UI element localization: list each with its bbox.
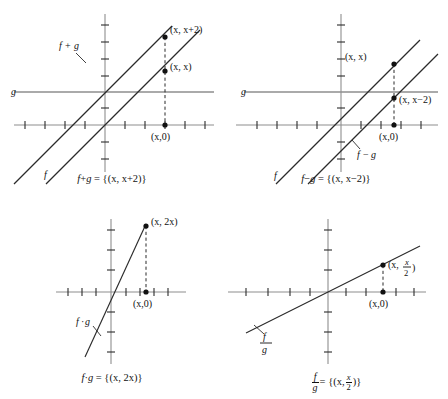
caption-g: g [88, 372, 93, 383]
caption-rhs: = {(x, x−2)} [318, 173, 371, 184]
point-label-base: (x,0) [151, 131, 170, 143]
svg-text:f: f [357, 149, 361, 160]
panel-4-plot: f g (x, x 2 ) (x,0) [224, 199, 448, 375]
panel-f-minus-g: g f f − g (x, x) (x, x−2) (x,0) f−g = {(… [224, 0, 448, 200]
point-on-f-times-g [143, 223, 148, 228]
svg-text:(x,: (x, [388, 259, 399, 271]
point-label-base: (x,0) [133, 298, 152, 310]
panel-2-plot: g f f − g (x, x) (x, x−2) (x,0) [224, 0, 448, 176]
panel-f-times-g: f · g (x, 2x) (x,0) f·g = {(x, 2x)} [0, 199, 224, 399]
f-minus-g-leader [352, 140, 360, 149]
svg-text:f: f [263, 331, 267, 342]
curve-label-f-times-g: f · g [76, 316, 90, 327]
point-on-f [162, 68, 167, 73]
point-on-x-axis [391, 122, 396, 127]
panel-f-plus-g: g f f + g (x, x+2) (x, x) (x,0) f+g = {(… [0, 0, 224, 200]
svg-text:2: 2 [404, 268, 408, 278]
point-label-mid: (x, x−2) [399, 94, 431, 106]
svg-text:·: · [81, 316, 84, 327]
svg-text:g: g [85, 316, 90, 327]
point-on-x-axis [162, 122, 167, 127]
caption-end: )} [353, 376, 362, 387]
caption-g: g [310, 173, 315, 184]
caption-inner-fraction: x2 [346, 373, 352, 391]
panel-3-caption: f·g = {(x, 2x)} [0, 372, 224, 383]
point-on-x-axis [380, 289, 385, 294]
svg-text:−: − [363, 149, 369, 160]
caption-mid: = {(x, [320, 376, 345, 387]
point-label-top: (x, x) [345, 51, 367, 63]
panel-4-caption: fg= {(x,x2)} [224, 372, 448, 393]
caption-num: f [312, 372, 319, 383]
caption-frac-den: 2 [346, 383, 352, 392]
caption-fraction-f-over-g: fg [312, 372, 319, 393]
point-label-top: (x, 2x) [151, 216, 178, 228]
caption-g: g [86, 173, 91, 184]
curve-label-f-plus-g: f + g [59, 40, 79, 51]
curve-label-f-over-g: f g [260, 331, 272, 355]
svg-text:f: f [59, 40, 63, 51]
panel-2-caption: f−g = {(x, x−2)} [224, 173, 448, 184]
svg-text:+: + [65, 40, 71, 51]
curve-f-times-g [85, 224, 146, 357]
curve-label-f-minus-g: f − g [357, 149, 376, 160]
svg-text:x: x [404, 257, 409, 267]
f-times-g-leader [93, 326, 101, 336]
svg-text:g: g [262, 344, 267, 355]
point-label-top: (x, x 2 ) [388, 257, 415, 278]
panel-3-plot: f · g (x, 2x) (x,0) [0, 199, 224, 375]
svg-text:g: g [371, 149, 376, 160]
panel-f-over-g: f g (x, x 2 ) (x,0) fg= {(x,x2)} [224, 199, 448, 399]
curve-f-plus-g [14, 26, 172, 184]
point-on-f [391, 61, 396, 66]
curve-f-minus-g [308, 54, 438, 184]
point-label-base: (x,0) [379, 131, 398, 143]
curve-f [46, 30, 200, 184]
curve-label-g: g [241, 86, 246, 97]
caption-rhs: = {(x, 2x)} [96, 372, 143, 383]
point-label-mid: (x, x) [170, 61, 192, 73]
caption-rhs: = {(x, x+2)} [94, 173, 147, 184]
point-on-f-plus-g [162, 34, 167, 39]
svg-text:f: f [76, 316, 80, 327]
figure-container: g f f + g (x, x+2) (x, x) (x,0) f+g = {(… [0, 0, 448, 399]
curve-label-g: g [11, 86, 16, 97]
point-label-top: (x, x+2) [170, 24, 202, 36]
point-on-f-over-g [380, 262, 385, 267]
panel-1-caption: f+g = {(x, x+2)} [0, 173, 224, 184]
f-plus-g-leader [76, 53, 86, 63]
panel-1-plot: g f f + g (x, x+2) (x, x) (x,0) [0, 0, 224, 176]
point-label-base: (x,0) [369, 298, 388, 310]
caption-den: g [312, 383, 319, 393]
svg-text:g: g [74, 40, 79, 51]
point-on-f-minus-g [391, 95, 396, 100]
point-on-x-axis [143, 289, 148, 294]
svg-text:): ) [412, 262, 415, 274]
